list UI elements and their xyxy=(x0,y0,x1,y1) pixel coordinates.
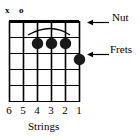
finger-dot xyxy=(74,54,85,65)
fretboard-grid xyxy=(9,21,80,102)
nut-arrow xyxy=(87,20,109,25)
nut-label: Nut xyxy=(112,12,129,23)
finger-dot xyxy=(46,38,57,49)
string-number-4: 4 xyxy=(32,105,42,116)
mute-marker-string-6: x xyxy=(5,6,10,15)
guitar-chord-diagram: x o Nut Frets 6 5 4 3 2 1 Strings xyxy=(0,0,140,140)
string-number-6: 6 xyxy=(4,105,14,116)
frets-label: Frets xyxy=(110,44,132,55)
slur-arc xyxy=(28,29,70,36)
finger-dot xyxy=(60,38,71,49)
string-number-1: 1 xyxy=(74,105,84,116)
finger-dot xyxy=(32,38,43,49)
string-number-3: 3 xyxy=(46,105,56,116)
string-number-5: 5 xyxy=(18,105,28,116)
finger-dots xyxy=(32,38,85,65)
frets-arrow xyxy=(87,52,109,57)
strings-caption: Strings xyxy=(28,121,59,132)
string-number-2: 2 xyxy=(60,105,70,116)
open-marker-string-5: o xyxy=(19,6,24,15)
